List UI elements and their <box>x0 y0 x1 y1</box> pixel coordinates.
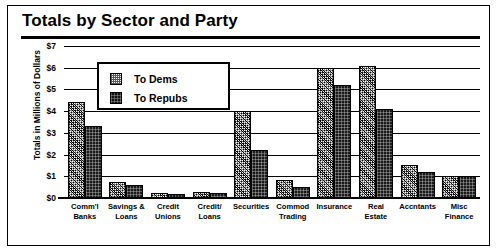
x-axis-tick-label-line <box>398 212 438 222</box>
x-axis-tick-label: Accntants <box>397 202 439 221</box>
bar-repubs[interactable] <box>210 193 227 198</box>
x-axis-tick-label-line: Insurance <box>315 202 355 212</box>
x-axis-tick-label-line: Credit <box>148 202 188 212</box>
legend-item-repubs[interactable]: To Repubs <box>110 88 228 107</box>
bar-repubs[interactable] <box>126 185 143 198</box>
y-axis-tick-label: $7 <box>26 41 56 51</box>
x-axis-tick-label-line: Credit/ <box>190 202 230 212</box>
chart-legend: To DemsTo Repubs <box>97 62 230 110</box>
x-axis-tick-label-line: Loans <box>190 212 230 222</box>
bar-repubs[interactable] <box>459 176 476 198</box>
y-axis-tick-label: $2 <box>26 150 56 160</box>
legend-label: To Repubs <box>134 92 187 104</box>
bar-group <box>314 46 356 198</box>
x-axis-tick-label: Securities <box>230 202 272 221</box>
bar-repubs[interactable] <box>85 126 102 198</box>
bar-group <box>438 46 480 198</box>
bar-repubs[interactable] <box>293 187 310 198</box>
x-axis-tick-label-line: Finance <box>439 212 479 222</box>
x-axis-tick-label-line <box>231 212 271 222</box>
x-axis-tick-label-line: Accntants <box>398 202 438 212</box>
chart-figure: Totals by Sector and Party Totals in Mil… <box>0 0 501 252</box>
x-axis-tick-labels: Comm'lBanksSavings &LoansCreditUnionsCre… <box>64 202 480 221</box>
x-axis-tick-label-line <box>315 212 355 222</box>
y-axis-tick-label: $3 <box>26 128 56 138</box>
chart-title: Totals by Sector and Party <box>22 11 238 31</box>
x-axis-tick-label-line: Savings & <box>107 202 147 212</box>
bar-dems[interactable] <box>401 165 418 198</box>
legend-label: To Dems <box>134 73 178 85</box>
x-axis-tick-label-line: Real <box>356 202 396 212</box>
x-axis-tick-label-line: Loans <box>107 212 147 222</box>
y-axis-tick-label: $6 <box>26 63 56 73</box>
y-axis-tick-label: $0 <box>26 193 56 203</box>
bar-dems[interactable] <box>234 111 251 198</box>
title-underline <box>21 36 480 39</box>
y-axis-tick-label: $5 <box>26 84 56 94</box>
bar-dems[interactable] <box>68 102 85 198</box>
x-axis-tick-label-line: Commod <box>273 202 313 212</box>
x-axis-tick-label-line: Misc <box>439 202 479 212</box>
bar-group <box>397 46 439 198</box>
bar-group <box>272 46 314 198</box>
x-axis-tick-label: CreditUnions <box>147 202 189 221</box>
bar-dems[interactable] <box>442 176 459 198</box>
x-axis-tick-label: CommodTrading <box>272 202 314 221</box>
x-axis-tick-label-line: Unions <box>148 212 188 222</box>
y-axis-tick-label: $1 <box>26 171 56 181</box>
y-axis-tick-label: $4 <box>26 106 56 116</box>
legend-swatch-dems <box>110 73 122 85</box>
bar-dems[interactable] <box>109 182 126 198</box>
x-axis-tick-label: Credit/Loans <box>189 202 231 221</box>
x-axis-tick-label-line: Securities <box>231 202 271 212</box>
legend-item-dems[interactable]: To Dems <box>110 69 228 88</box>
x-axis-tick-label: Insurance <box>314 202 356 221</box>
x-axis-tick-label: Comm'lBanks <box>64 202 106 221</box>
bar-dems[interactable] <box>317 68 334 198</box>
x-axis-tick-label: Savings &Loans <box>106 202 148 221</box>
x-axis-tick-label-line: Trading <box>273 212 313 222</box>
x-axis-tick-label-line: Comm'l <box>65 202 105 212</box>
legend-swatch-repubs <box>110 92 122 104</box>
bar-group <box>230 46 272 198</box>
bar-repubs[interactable] <box>376 109 393 198</box>
bar-repubs[interactable] <box>418 172 435 198</box>
bar-dems[interactable] <box>359 66 376 198</box>
bar-repubs[interactable] <box>251 150 268 198</box>
bar-dems[interactable] <box>276 180 293 198</box>
x-axis-tick-label: MiscFinance <box>438 202 480 221</box>
bar-group <box>355 46 397 198</box>
bar-dems[interactable] <box>151 193 168 198</box>
x-axis-tick-label-line: Estate <box>356 212 396 222</box>
x-axis-tick-label-line: Banks <box>65 212 105 222</box>
bar-repubs[interactable] <box>334 85 351 198</box>
bar-dems[interactable] <box>193 192 210 199</box>
x-axis-tick-label: RealEstate <box>355 202 397 221</box>
bar-repubs[interactable] <box>168 194 185 198</box>
